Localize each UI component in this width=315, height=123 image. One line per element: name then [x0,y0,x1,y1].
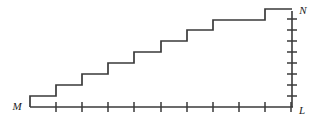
label-n: N [298,4,307,16]
staircase-figure: M N L [0,0,315,123]
staircase-polyline [30,9,292,107]
label-l: L [298,104,305,116]
label-m: M [11,100,22,112]
figure-canvas: M N L [0,0,315,123]
